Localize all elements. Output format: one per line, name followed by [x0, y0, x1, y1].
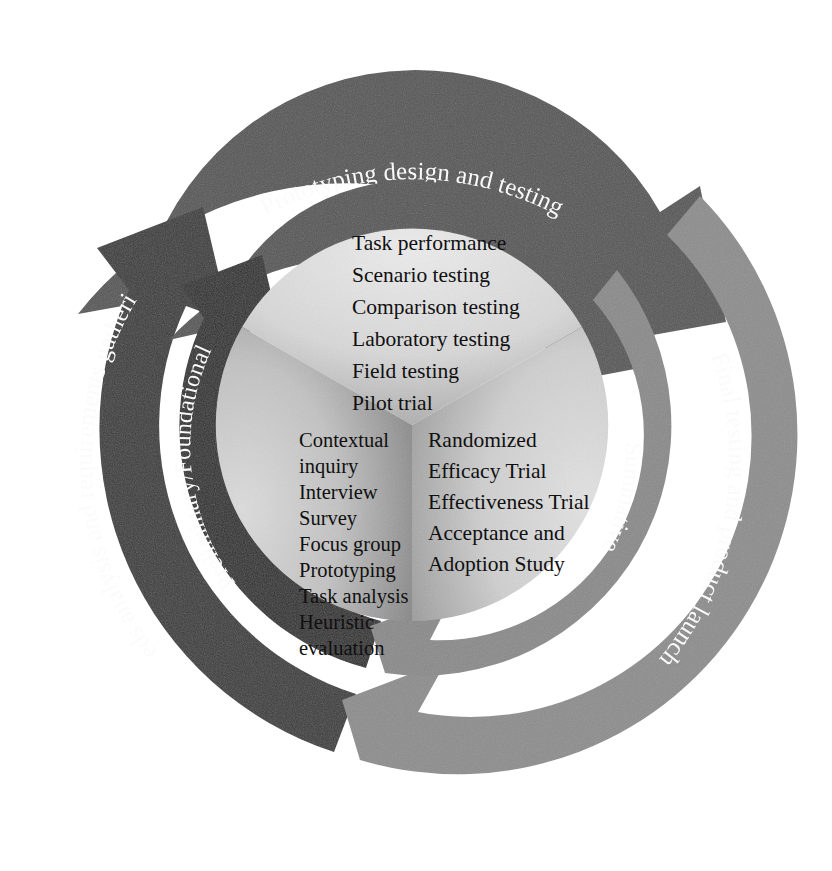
diagram-canvas: Prototyping design and testing Needs ana… [0, 0, 832, 871]
sector-right-item: Effectiveness Trial [428, 490, 589, 514]
sector-top-item: Scenario testing [352, 263, 490, 287]
sector-right-item: Randomized [428, 428, 537, 452]
sector-top-item: Comparison testing [352, 295, 520, 319]
sector-left-item: inquiry [299, 455, 359, 478]
sector-right-item: Acceptance and [428, 521, 565, 545]
sector-top-item: Laboratory testing [352, 327, 510, 351]
sector-top-item: Pilot trial [352, 391, 433, 415]
sector-top-item: Field testing [352, 359, 459, 383]
sector-left-item: Interview [299, 481, 378, 503]
sector-right-item: Adoption Study [428, 552, 565, 576]
sector-left-item: Prototyping [299, 559, 396, 582]
sector-top-item: Task performance [352, 231, 506, 255]
sector-left-item: Focus group [299, 533, 401, 556]
sector-right-item: Efficacy Trial [428, 459, 546, 483]
sector-left-item: Survey [299, 507, 358, 530]
sector-left-item: Heuristic [299, 611, 374, 633]
sector-left-item: Task analysis [299, 585, 409, 608]
sector-left-item: evaluation [299, 637, 384, 659]
sector-left-item: Contextual [299, 429, 389, 451]
cycle-diagram: Prototyping design and testing Needs ana… [0, 0, 832, 871]
